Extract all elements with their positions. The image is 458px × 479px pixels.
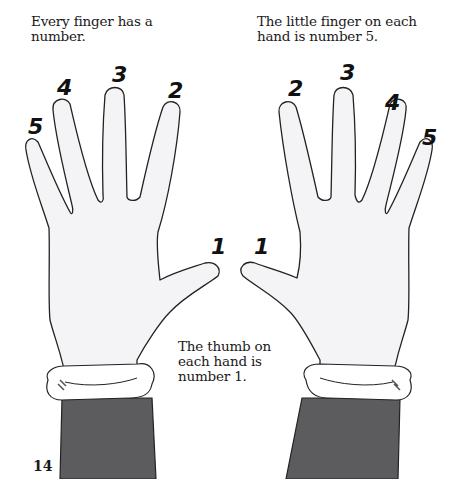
left-finger-3-label: 3: [112, 62, 127, 87]
caption-every-finger: Every finger has a number.: [31, 14, 171, 44]
right-finger-5-label: 5: [422, 125, 437, 150]
right-finger-4-label: 4: [384, 90, 400, 115]
left-finger-4-label: 4: [56, 75, 72, 100]
caption-thumb: The thumb on each hand is number 1.: [178, 339, 288, 384]
page-number: 14: [33, 458, 52, 474]
left-finger-2-label: 2: [168, 78, 183, 103]
left-hand: [26, 88, 219, 479]
caption-little-finger: The little finger on each hand is number…: [257, 14, 437, 44]
right-finger-3-label: 3: [340, 60, 355, 85]
right-finger-2-label: 2: [288, 76, 303, 101]
right-cuff: [304, 364, 411, 400]
hands-illustration: 5 4 3 2 1 1 2 3 4 5: [0, 0, 458, 479]
left-sleeve: [60, 398, 156, 479]
left-thumb-1-label: 1: [211, 234, 226, 259]
right-sleeve: [286, 398, 400, 479]
left-finger-5-label: 5: [28, 114, 43, 139]
book-page: 5 4 3 2 1 1 2 3 4 5 Every finger has a n…: [0, 0, 458, 479]
right-thumb-1-label: 1: [254, 234, 269, 259]
right-hand: [241, 88, 432, 479]
